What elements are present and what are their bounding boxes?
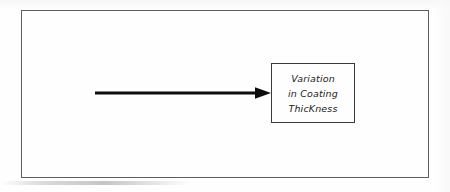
- label-line-3: ThicKness: [288, 101, 337, 116]
- label-box: Variation in Coating ThicKness: [271, 63, 355, 123]
- diagram-screenshot: Variation in Coating ThicKness: [0, 0, 450, 192]
- scan-artifact-bottom: [0, 181, 190, 185]
- arrow-icon: [90, 80, 275, 106]
- scan-artifact-top: [0, 0, 450, 10]
- scan-artifact-right: [436, 0, 450, 192]
- label-line-1: Variation: [291, 71, 335, 86]
- flow-arrow: [90, 80, 275, 106]
- label-line-2: in Coating: [288, 86, 338, 101]
